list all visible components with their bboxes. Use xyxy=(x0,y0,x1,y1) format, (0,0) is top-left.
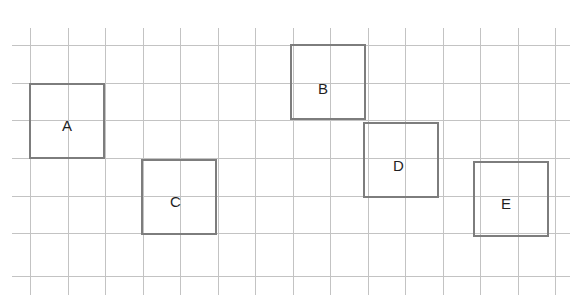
square-label-e: E xyxy=(501,196,511,211)
square-label-a: A xyxy=(62,118,72,133)
figure-canvas: ABCDE xyxy=(0,0,575,307)
square-label-c: C xyxy=(170,194,181,209)
square-label-b: B xyxy=(318,81,328,96)
square-label-d: D xyxy=(393,158,404,173)
labels-layer: ABCDE xyxy=(0,0,575,307)
